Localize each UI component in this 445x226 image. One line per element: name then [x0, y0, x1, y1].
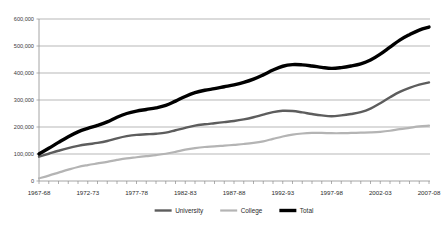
x-axis-tick-label: 1972-73	[76, 189, 99, 196]
x-axis-tick-label: 1987-88	[223, 189, 246, 196]
y-axis-tick-label: 200,000	[14, 124, 34, 130]
x-axis-tick-label: 1997-98	[320, 189, 343, 196]
x-axis-labels-group: 1967-681972-731977-781982-831987-881992-…	[28, 189, 441, 196]
y-axis-tick-label: 500,000	[14, 43, 34, 49]
y-axis-tick-label: 0	[31, 178, 34, 184]
legend-label-total: Total	[300, 207, 314, 214]
legend-item-college[interactable]: College	[220, 207, 263, 215]
gridlines-group	[37, 19, 431, 181]
x-axis-group	[39, 19, 430, 184]
y-axis-tick-label: 400,000	[14, 70, 34, 76]
x-axis-tick-label: 1977-78	[125, 189, 148, 196]
chart-canvas: 0100,000200,000300,000400,000500,000600,…	[0, 0, 445, 226]
y-axis-labels-group: 0100,000200,000300,000400,000500,000600,…	[14, 16, 34, 184]
series-line-college	[39, 126, 429, 179]
y-axis-tick-label: 300,000	[14, 97, 34, 103]
y-axis-tick-label: 100,000	[14, 151, 34, 157]
legend-label-college: College	[241, 207, 263, 215]
line-chart: 0100,000200,000300,000400,000500,000600,…	[0, 0, 445, 226]
legend-label-university: University	[175, 207, 204, 215]
legend-group: UniversityCollegeTotal	[155, 207, 314, 215]
legend-item-university[interactable]: University	[155, 207, 204, 215]
x-axis-tick-label: 2007-08	[418, 189, 441, 196]
series-group	[39, 27, 429, 178]
x-axis-tick-label: 1992-93	[271, 189, 294, 196]
x-axis-tick-label: 1967-68	[28, 189, 51, 196]
legend-item-total[interactable]: Total	[279, 207, 313, 214]
x-axis-tick-label: 2002-03	[369, 189, 392, 196]
y-axis-tick-label: 600,000	[14, 16, 34, 22]
x-axis-tick-label: 1982-83	[174, 189, 197, 196]
